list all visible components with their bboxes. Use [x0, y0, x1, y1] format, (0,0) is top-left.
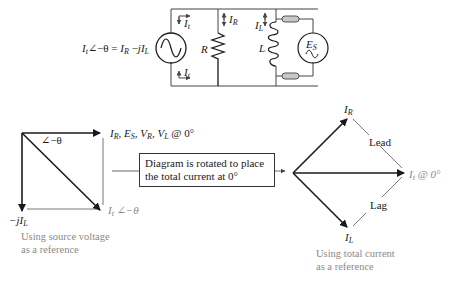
label-lead: Lead	[369, 136, 391, 148]
label-ir-right: IR	[344, 103, 353, 119]
caption-right-line2: as a reference	[316, 260, 395, 273]
es-sub: S	[313, 43, 317, 52]
inductor-icon	[268, 22, 278, 66]
note-line2: the total current at 0°	[145, 170, 274, 183]
label-resistor: R	[201, 43, 208, 55]
label-inductor: L	[259, 42, 265, 54]
label-it-zero: It @ 0°	[409, 168, 440, 184]
label-it-top: It	[184, 17, 190, 33]
caption-left-line1: Using source voltage	[21, 230, 110, 243]
rotation-note-box: Diagram is rotated to place the total cu…	[139, 153, 275, 187]
jil-main: −jI	[9, 214, 23, 226]
jil-sub: L	[23, 219, 27, 228]
label-reference-phasors: IR, ES, VR, VL @ 0°	[110, 127, 194, 143]
caption-right-line1: Using total current	[316, 247, 395, 260]
il-sub: L	[259, 24, 263, 33]
label-il: IL	[255, 19, 263, 35]
note-line1: Diagram is rotated to place	[145, 157, 274, 170]
it-bottom-sub: t	[188, 71, 190, 80]
ir-sub: R	[233, 18, 238, 27]
circuit-schematic	[156, 9, 328, 86]
phasor-diagram-voltage-ref	[22, 133, 103, 211]
label-minus-jil: −jIL	[9, 214, 28, 230]
label-angle-theta: ∠−θ	[41, 134, 62, 146]
eq-j: jI	[138, 42, 145, 54]
eq-minus: −	[129, 42, 138, 54]
probe-terminal-bottom	[282, 73, 299, 79]
caption-voltage-reference: Using source voltage as a reference	[21, 230, 110, 256]
label-it-bottom: It	[184, 66, 190, 82]
it-top-sub: t	[188, 22, 190, 31]
il-right-sub: L	[349, 236, 353, 245]
lp-angle: @ 0°	[169, 127, 195, 139]
phasor-ir-right	[293, 119, 347, 173]
ir-right-sub: R	[348, 108, 353, 117]
eq-angle: ∠−θ =	[88, 42, 120, 54]
es-main: E	[306, 38, 313, 50]
total-current-equation: It∠−θ = IR −jIL	[82, 42, 149, 58]
caption-left-line2: as a reference	[21, 243, 110, 256]
it-diag-suffix: ∠−θ	[114, 204, 139, 216]
lp-es: , E	[119, 127, 131, 139]
phasor-il-right	[293, 173, 347, 227]
it-right-suffix: @ 0°	[415, 168, 441, 180]
label-it-angle: It ∠−θ	[108, 204, 139, 220]
label-es: ES	[306, 38, 317, 54]
lp-vl: , V	[152, 127, 164, 139]
caption-current-reference: Using total current as a reference	[316, 247, 395, 273]
label-il-right: IL	[345, 231, 353, 247]
label-ir: IR	[229, 13, 238, 29]
lp-vr: , V	[135, 127, 147, 139]
label-lag: Lag	[370, 199, 387, 211]
eq-j-sub: L	[145, 47, 149, 56]
probe-terminal-top	[282, 16, 299, 22]
resistor-icon	[212, 33, 224, 86]
